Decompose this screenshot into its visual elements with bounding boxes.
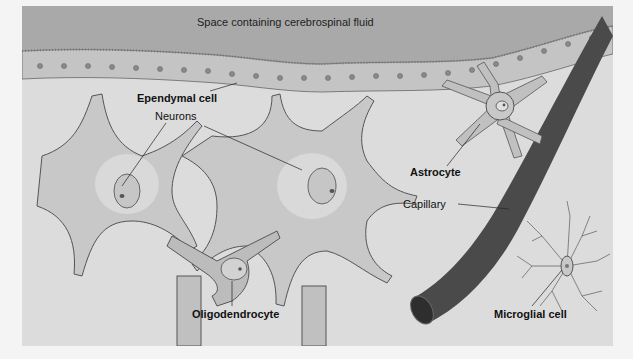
label-astrocyte: Astrocyte <box>410 166 461 178</box>
label-neurons: Neurons <box>155 110 197 122</box>
label-oligodendrocyte: Oligodendrocyte <box>192 308 279 320</box>
label-csf-space: Space containing cerebrospinal fluid <box>197 16 374 28</box>
label-capillary: Capillary <box>403 198 446 210</box>
label-microglial-cell: Microglial cell <box>494 308 567 320</box>
label-ependymal-cell: Ependymal cell <box>137 92 217 104</box>
illustration-panel: Space containing cerebrospinal fluid Epe… <box>22 6 613 346</box>
neuroglia-diagram: Space containing cerebrospinal fluid Epe… <box>0 0 633 359</box>
illustration-graphic <box>22 6 613 346</box>
